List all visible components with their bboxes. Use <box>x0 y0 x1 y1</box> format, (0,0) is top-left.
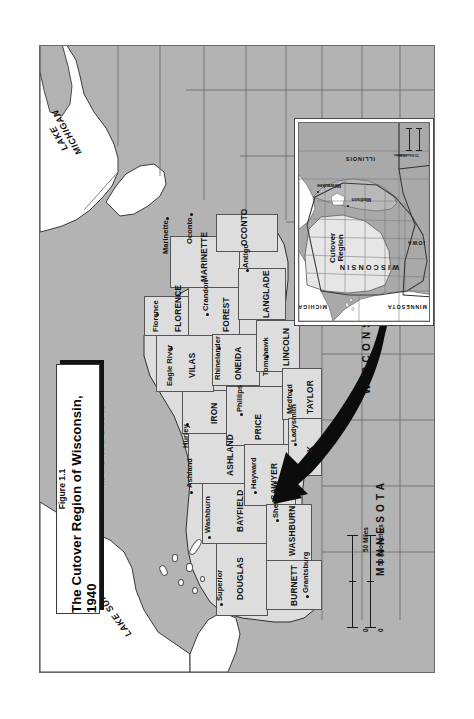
island-shape <box>172 554 178 562</box>
inset-scale-line <box>409 129 410 151</box>
county-label-oconto: OCONTO <box>240 209 248 246</box>
county-label-florence: FLORENCE <box>174 285 182 332</box>
city-label-superior: Superior <box>216 570 224 601</box>
county-label-vilas: VILAS <box>188 353 196 378</box>
scale-tick <box>347 535 358 536</box>
map-figure: LAKE SUPERIOR LAKE MICHIGAN MICHIGAN WIS… <box>39 45 435 673</box>
scale-bar: 0 50 Miles 0 50 Kilometers <box>336 526 386 636</box>
inset-map-inner: WISCONSIN MICHIGAN MINNESOTA IOWA ILLINO… <box>298 122 430 322</box>
city-label-florence: Florence <box>152 300 160 332</box>
island-shape <box>178 579 184 586</box>
inset-minnesota-label: MINNESOTA <box>387 304 427 309</box>
inset-wisconsin-label: WISCONSIN <box>338 264 399 271</box>
island-shape <box>186 563 193 572</box>
city-label-washburn: Washburn <box>204 496 212 533</box>
city-label-crandon: Crandon <box>202 280 210 311</box>
scale-tick <box>347 627 358 628</box>
county-label-forest: FOREST <box>222 297 230 332</box>
county-label-oneida: ONEIDA <box>234 347 242 380</box>
inset-scale-tick <box>406 150 412 151</box>
inset-scale-tick <box>416 128 422 129</box>
scale-bar-miles-line <box>352 536 353 628</box>
city-label-ashland: Ashland <box>186 458 194 488</box>
county-label-bayfield: BAYFIELD <box>236 490 244 532</box>
scale-bar-km-line <box>370 536 371 628</box>
inset-michigan-label: MICHIGAN <box>298 304 327 309</box>
scale-tick <box>349 581 356 582</box>
county-label-douglas: DOUGLAS <box>236 557 244 600</box>
inset-iowa-label: IOWA <box>407 240 425 245</box>
scale-miles-label: 50 Miles <box>362 527 369 552</box>
island-shape <box>192 587 198 594</box>
city-label-hurley: Hurley <box>182 424 190 448</box>
pointer-arrow <box>272 312 390 512</box>
island-shape <box>200 576 205 582</box>
figure-title: The Cutover Region of Wisconsin, 1940 <box>69 365 99 613</box>
inset-scale-line <box>419 129 420 151</box>
figure-page: LAKE SUPERIOR LAKE MICHIGAN MICHIGAN WIS… <box>0 0 474 719</box>
scale-tick <box>365 535 376 536</box>
county-label-ashland: ASHLAND <box>226 434 234 476</box>
scale-tick <box>365 627 376 628</box>
city-label-hayward: Hayward <box>250 457 258 489</box>
city-label-phillips: Phillips <box>236 385 244 412</box>
city-label-antigo: Antigo <box>242 244 250 268</box>
city-label-oconto: Oconto <box>186 217 194 244</box>
scale-tick <box>367 581 374 582</box>
inset-cutover-line2: Region <box>336 234 345 261</box>
inset-scale-tick <box>406 128 412 129</box>
county-label-iron: IRON <box>210 402 218 424</box>
city-label-tomahawk: Tomahawk <box>262 337 270 376</box>
inset-map: WISCONSIN MICHIGAN MINNESOTA IOWA ILLINO… <box>294 118 434 326</box>
figure-number: Figure 1.1 <box>57 469 67 510</box>
inset-milwaukee-label: Milwaukee <box>317 182 341 187</box>
city-label-rhinelander: Rhinelander <box>214 336 222 380</box>
scale-km-label: 50 Kilometers <box>377 524 384 566</box>
county-shape-forest <box>188 286 240 336</box>
scale-zero-km: 0 <box>377 628 384 632</box>
city-label-eagle-river: Eagle River <box>166 345 174 386</box>
inset-scale-km-label: 75 Kilometers <box>397 153 419 157</box>
scale-zero-miles: 0 <box>362 628 369 632</box>
county-label-price: PRICE <box>254 414 262 440</box>
county-label-marinette: MARINETTE <box>200 232 208 282</box>
city-label-grantsburg: Grantsburg <box>302 552 310 593</box>
inset-madison-label: Madison <box>352 196 371 201</box>
inset-scale-bar: 75 Miles 75 Kilometers <box>405 125 427 153</box>
inset-illinois-label: ILLINOIS <box>345 156 375 161</box>
city-label-marinette: Marinette <box>162 220 170 254</box>
figure-title-box: Figure 1.1 The Cutover Region of Wiscons… <box>56 364 100 614</box>
inset-scale-tick <box>416 150 422 151</box>
county-label-washburn: WASHBURN <box>288 506 296 556</box>
county-label-burnett: BURNETT <box>290 565 298 606</box>
county-label-langlade: LANGLADE <box>262 270 270 318</box>
